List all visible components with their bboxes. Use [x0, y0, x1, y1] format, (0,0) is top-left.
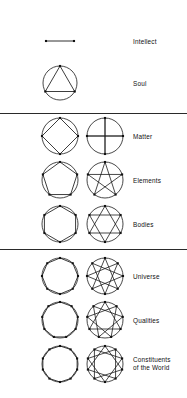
- vertex-dot: [59, 241, 61, 243]
- vertex-dot: [122, 135, 124, 137]
- vertex-dot: [75, 214, 77, 216]
- vertex-dot: [120, 232, 122, 234]
- vertex-dot: [86, 316, 88, 318]
- vertex-dot: [121, 357, 123, 359]
- figure-elements-star: [87, 161, 123, 198]
- vertex-dot: [59, 161, 61, 163]
- vertex-dot: [59, 345, 61, 347]
- figure-universe-star: [86, 257, 124, 295]
- vertex-dot: [117, 288, 119, 290]
- vertex-dot: [47, 305, 49, 307]
- vertex-dot: [122, 275, 124, 277]
- vertex-dot: [59, 65, 61, 67]
- figure-circle: [42, 118, 78, 154]
- vertex-dot: [41, 275, 43, 277]
- figure-circle: [42, 346, 78, 382]
- vertex-dot: [88, 214, 90, 216]
- vertex-dot: [121, 369, 123, 371]
- vertex-dot: [41, 135, 43, 137]
- vertex-dot: [77, 316, 79, 318]
- vertex-dot: [104, 153, 106, 155]
- row-label-qualities: Qualities: [133, 317, 159, 325]
- vertex-dot: [87, 369, 89, 371]
- figure-constituents-star: [87, 345, 123, 383]
- vertex-dot: [42, 173, 44, 175]
- figure-bodies-polygon: [42, 205, 78, 243]
- vertex-dot: [88, 232, 90, 234]
- vertex-dot: [48, 348, 50, 350]
- vertex-dot: [120, 328, 122, 330]
- vertex-dot: [104, 345, 106, 347]
- vertex-dot: [74, 90, 76, 92]
- vertex-dot: [104, 161, 106, 163]
- vertex-dot: [72, 288, 74, 290]
- figure-circle: [87, 206, 123, 242]
- divider-after-bodies: [0, 249, 187, 250]
- vertex-dot: [46, 288, 48, 290]
- vertex-dot: [93, 378, 95, 380]
- figure-elements-polygon: [42, 161, 78, 198]
- figure-intellect-polygon: [45, 40, 75, 42]
- vertex-dot: [42, 369, 44, 371]
- vertex-dot: [42, 357, 44, 359]
- vertex-dot: [120, 214, 122, 216]
- vertex-dot: [59, 117, 61, 119]
- vertex-dot: [117, 262, 119, 264]
- figure-circle: [42, 206, 78, 242]
- figure-qualities-polygon: [41, 301, 79, 338]
- inscribed-polygon: [44, 206, 75, 242]
- vertex-dot: [44, 90, 46, 92]
- vertex-dot: [116, 305, 118, 307]
- vertex-dot: [77, 135, 79, 137]
- vertex-dot: [76, 173, 78, 175]
- vertex-dot: [65, 336, 67, 338]
- vertex-dot: [73, 40, 75, 42]
- vertex-dot: [104, 117, 106, 119]
- vertex-dot: [104, 205, 106, 207]
- vertex-dot: [75, 232, 77, 234]
- figure-circle: [42, 162, 78, 198]
- vertex-dot: [76, 369, 78, 371]
- vertex-dot: [41, 316, 43, 318]
- vertex-dot: [59, 293, 61, 295]
- row-label-constituents: Constituents of the World: [133, 356, 171, 372]
- vertex-dot: [45, 40, 47, 42]
- row-label-intellect: Intellect: [133, 38, 157, 46]
- vertex-dot: [86, 135, 88, 137]
- vertex-dot: [59, 381, 61, 383]
- row-label-matter: Matter: [133, 133, 152, 141]
- vertex-dot: [71, 305, 73, 307]
- row-label-universe: Universe: [133, 273, 160, 281]
- figure-soul-polygon: [43, 65, 77, 100]
- figure-universe-polygon: [41, 257, 79, 295]
- vertex-dot: [87, 357, 89, 359]
- vertex-dot: [104, 257, 106, 259]
- vertex-dot: [46, 262, 48, 264]
- vertex-dot: [77, 275, 79, 277]
- vertex-dot: [43, 214, 45, 216]
- vertex-dot: [86, 275, 88, 277]
- vertex-dot: [59, 257, 61, 259]
- vertex-dot: [48, 194, 50, 196]
- vertex-dot: [70, 194, 72, 196]
- vertex-dot: [88, 328, 90, 330]
- vertex-dot: [115, 348, 117, 350]
- figure-circle: [87, 162, 123, 198]
- figure-bodies-star: [87, 205, 123, 243]
- star-polygon-orbit: [88, 346, 122, 382]
- row-label-bodies: Bodies: [133, 221, 154, 229]
- vertex-dot: [115, 378, 117, 380]
- vertex-dot: [70, 378, 72, 380]
- vertex-dot: [59, 153, 61, 155]
- vertex-dot: [104, 293, 106, 295]
- figure-qualities-star: [86, 301, 124, 338]
- vertex-dot: [121, 173, 123, 175]
- vertex-dot: [75, 328, 77, 330]
- vertex-dot: [59, 205, 61, 207]
- figure-circle: [87, 302, 123, 338]
- figure-matter-star: [86, 117, 124, 155]
- vertex-dot: [104, 301, 106, 303]
- vertex-dot: [110, 336, 112, 338]
- figure-matter-polygon: [41, 117, 79, 155]
- vertex-dot: [122, 316, 124, 318]
